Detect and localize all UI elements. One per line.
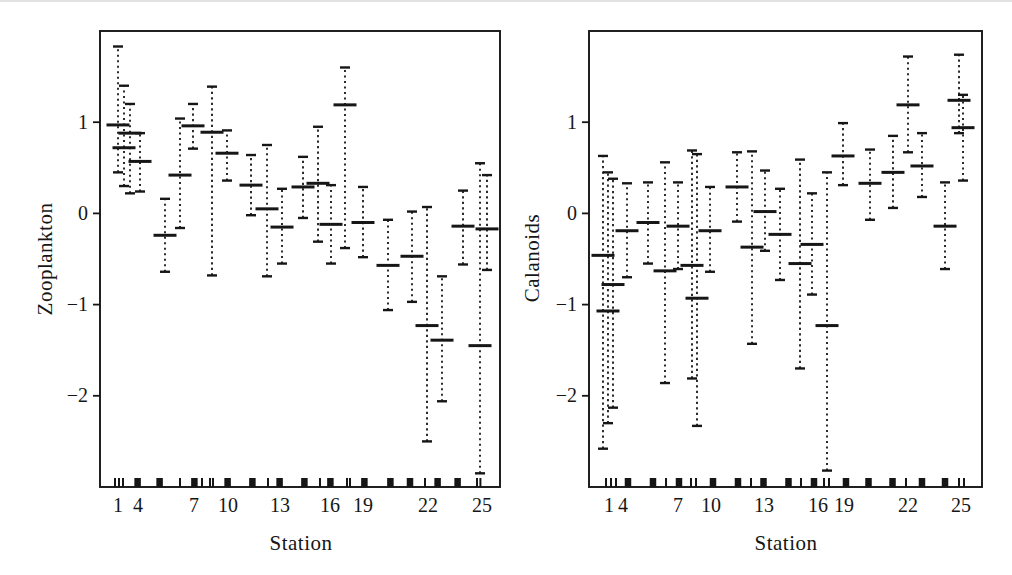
- figure-svg: 10−1−214710131619222510−1−21471013161922…: [0, 0, 1012, 575]
- interval-plots-figure: 10−1−214710131619222510−1−21471013161922…: [0, 0, 1012, 575]
- y-tick-label: 1: [78, 111, 88, 133]
- rug-mark: [122, 478, 124, 487]
- rug-mark: [476, 478, 478, 487]
- station-interval: [452, 191, 475, 265]
- station-interval: [240, 155, 263, 215]
- station-interval: [881, 136, 904, 208]
- right-y-axis-title: Calanoids: [520, 214, 545, 303]
- station-interval: [896, 57, 919, 153]
- rug-mark: [735, 478, 742, 487]
- station-interval: [129, 133, 152, 191]
- rug-mark: [134, 478, 141, 487]
- rug-mark: [865, 478, 872, 487]
- rug-mark: [889, 478, 896, 487]
- x-tick-label: 13: [754, 494, 774, 516]
- rug-mark: [212, 478, 214, 487]
- rug-mark: [710, 478, 717, 487]
- x-tick-label: 10: [701, 494, 721, 516]
- right-x-axis-title: Station: [754, 531, 817, 556]
- y-tick-label: 0: [567, 202, 577, 224]
- rug-mark: [610, 478, 612, 487]
- rug-mark: [800, 478, 802, 487]
- station-interval: [616, 183, 639, 277]
- rug-mark: [676, 478, 683, 487]
- y-tick-label: 1: [567, 111, 577, 133]
- station-interval: [352, 187, 375, 257]
- rug-mark: [156, 478, 163, 487]
- rug-mark: [224, 478, 231, 487]
- rug-mark: [201, 478, 203, 487]
- rug-mark: [454, 478, 461, 487]
- station-interval: [800, 193, 823, 294]
- x-tick-label: 1: [604, 494, 614, 516]
- rug-mark: [209, 478, 211, 487]
- station-interval: [636, 182, 659, 263]
- y-tick-label: −1: [67, 293, 88, 315]
- station-interval: [768, 189, 791, 280]
- plot-frame: [589, 31, 982, 487]
- y-tick-label: −2: [556, 384, 577, 406]
- rug-mark: [785, 478, 792, 487]
- rug-mark: [605, 478, 607, 487]
- station-interval: [320, 185, 343, 263]
- x-tick-label: 10: [218, 494, 238, 516]
- rug-mark: [750, 478, 752, 487]
- rug-mark: [361, 478, 368, 487]
- station-interval: [256, 145, 279, 276]
- x-tick-label: 7: [189, 494, 199, 516]
- calanoids-plot: 10−1−2147101316192225: [556, 31, 982, 516]
- x-tick-label: 19: [834, 494, 854, 516]
- station-interval: [667, 182, 690, 269]
- rug-mark: [387, 478, 394, 487]
- rug-mark: [760, 478, 767, 487]
- x-tick-label: 16: [320, 494, 340, 516]
- station-interval: [910, 133, 933, 197]
- x-tick-label: 16: [808, 494, 828, 516]
- station-interval: [113, 86, 136, 186]
- rug-mark: [349, 478, 351, 487]
- plot-frame: [100, 31, 500, 487]
- station-interval: [654, 162, 677, 383]
- x-tick-label: 19: [353, 494, 373, 516]
- x-tick-label: 4: [618, 494, 628, 516]
- rug-mark: [267, 478, 269, 487]
- station-interval: [169, 119, 192, 228]
- station-interval: [741, 151, 764, 343]
- rug-mark: [301, 478, 308, 487]
- station-interval: [726, 152, 749, 221]
- station-interval: [431, 276, 454, 401]
- left-x-axis-title: Station: [269, 531, 332, 556]
- station-interval: [831, 123, 854, 185]
- rug-mark: [919, 478, 926, 487]
- station-interval: [377, 220, 400, 310]
- station-interval: [154, 199, 177, 272]
- station-interval: [292, 157, 315, 218]
- left-y-axis-title: Zooplankton: [33, 203, 58, 316]
- y-tick-label: 0: [78, 202, 88, 224]
- station-interval: [681, 150, 704, 378]
- rug-mark: [319, 478, 321, 487]
- rug-mark: [625, 478, 632, 487]
- x-tick-label: 22: [418, 494, 438, 516]
- station-interval: [753, 171, 776, 251]
- rug-mark: [434, 478, 441, 487]
- rug-mark: [811, 478, 818, 487]
- station-interval: [789, 160, 812, 369]
- station-interval: [934, 182, 957, 269]
- rug-mark: [690, 478, 692, 487]
- rug-mark: [118, 478, 120, 487]
- rug-mark: [479, 478, 481, 487]
- rug-mark: [843, 478, 850, 487]
- x-tick-label: 25: [472, 494, 492, 516]
- x-tick-label: 7: [673, 494, 683, 516]
- x-tick-label: 1: [113, 494, 123, 516]
- station-interval: [216, 130, 239, 180]
- x-tick-label: 4: [133, 494, 143, 516]
- rug-mark: [828, 478, 830, 487]
- rug-mark: [615, 478, 617, 487]
- station-interval: [271, 189, 294, 264]
- rug-mark: [665, 478, 667, 487]
- x-tick-label: 22: [898, 494, 918, 516]
- x-tick-label: 13: [270, 494, 290, 516]
- rug-mark: [179, 478, 181, 487]
